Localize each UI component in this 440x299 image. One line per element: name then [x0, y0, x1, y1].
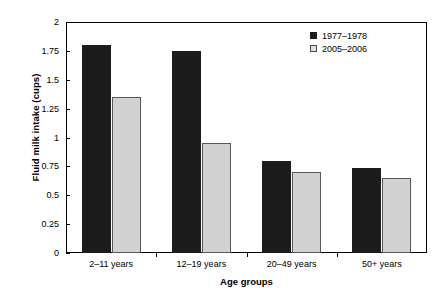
- y-axis-tick-mark: [66, 195, 70, 196]
- x-axis-category-label: 50+ years: [337, 259, 427, 269]
- y-axis-tick-label: 1: [22, 133, 59, 142]
- bar-series2: [382, 178, 411, 253]
- y-axis-tick-label: 0.75: [22, 162, 59, 171]
- y-axis-tick-mark: [66, 138, 70, 139]
- legend-item: 1977–1978: [310, 29, 367, 42]
- y-axis-tick-label: 1.25: [22, 104, 59, 113]
- x-axis-category-label: 12–19 years: [156, 259, 246, 269]
- y-axis-tick-mark: [66, 22, 70, 23]
- x-axis-tick-mark: [337, 253, 338, 257]
- x-axis-tick-mark: [247, 253, 248, 257]
- legend-item: 2005–2006: [310, 42, 367, 55]
- bars-layer: [66, 22, 427, 253]
- bar-series1: [352, 168, 381, 253]
- y-axis-tick-label: 1.75: [22, 46, 59, 55]
- legend-item-label: 1977–1978: [322, 31, 367, 41]
- y-axis-tick-label: 0.5: [22, 191, 59, 200]
- y-axis-tick-label: 2: [22, 18, 59, 27]
- y-axis-tick-mark: [66, 166, 70, 167]
- y-axis-tick-mark: [66, 253, 70, 254]
- y-axis-tick-label: 0: [22, 249, 59, 258]
- bar-group: [66, 22, 427, 253]
- y-axis-tick-label: 1.5: [22, 75, 59, 84]
- x-axis-category-label: 2–11 years: [66, 259, 156, 269]
- dark-square-icon: [310, 32, 317, 39]
- bar-chart: Fluid milk intake (cups) 00.250.50.7511.…: [0, 0, 440, 299]
- x-axis-category-label: 20–49 years: [247, 259, 337, 269]
- x-axis-title: Age groups: [66, 276, 427, 287]
- y-axis-tick-mark: [66, 51, 70, 52]
- chart-legend: 1977–19782005–2006: [310, 29, 367, 55]
- y-axis-tick-labels: 00.250.50.7511.251.51.752: [22, 0, 59, 299]
- legend-item-label: 2005–2006: [322, 44, 367, 54]
- y-axis-tick-mark: [66, 80, 70, 81]
- y-axis-tick-label: 0.25: [22, 220, 59, 229]
- light-square-icon: [310, 45, 317, 52]
- y-axis-tick-mark: [66, 224, 70, 225]
- y-axis-tick-mark: [66, 109, 70, 110]
- x-axis-tick-mark: [156, 253, 157, 257]
